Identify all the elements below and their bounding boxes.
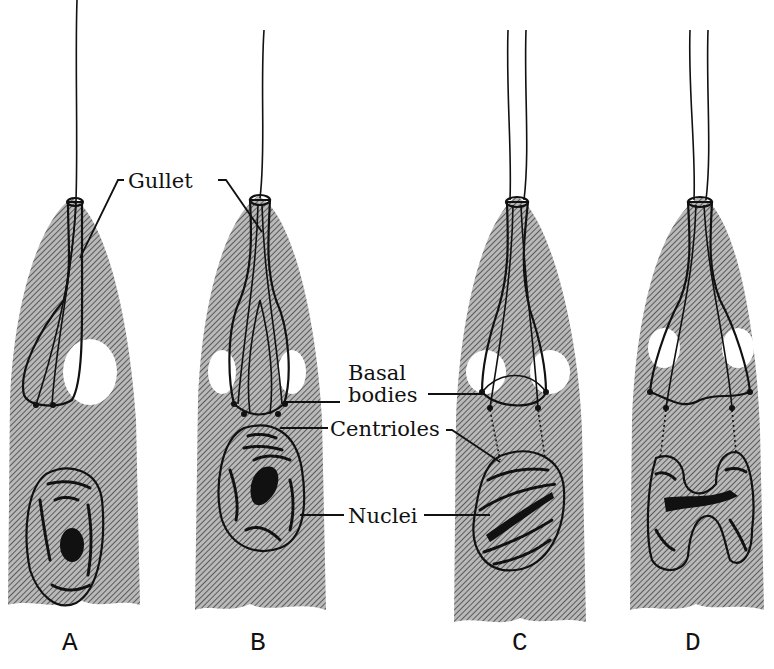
panel-b: B xyxy=(195,30,326,658)
panel-label-b: B xyxy=(250,628,266,658)
panel-label-a: A xyxy=(62,628,78,658)
cell-body-b xyxy=(195,196,326,610)
diagram-figure: A B xyxy=(0,0,774,669)
panel-c: C xyxy=(454,30,586,658)
panel-label-d: D xyxy=(685,628,701,658)
label-basal-bodies-line1: Basal xyxy=(348,361,406,385)
cell-body-c xyxy=(454,196,586,622)
panel-d: D xyxy=(630,30,764,658)
label-centrioles: Centrioles xyxy=(330,417,440,441)
label-nuclei: Nuclei xyxy=(348,504,418,528)
vacuole-a xyxy=(63,339,117,405)
label-basal-bodies-line2: bodies xyxy=(348,383,417,407)
panel-a: A xyxy=(8,0,140,658)
panel-label-c: C xyxy=(512,628,528,658)
vacuole-b-right xyxy=(278,350,306,394)
label-gullet: Gullet xyxy=(128,169,193,193)
